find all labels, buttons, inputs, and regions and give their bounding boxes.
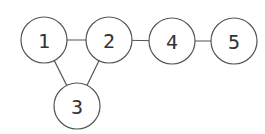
node-1: 1 [21, 17, 67, 63]
node-2-label: 2 [103, 29, 115, 53]
nodes: 1 2 3 4 5 [21, 17, 257, 129]
node-5-label: 5 [228, 30, 240, 54]
node-3-label: 3 [71, 95, 83, 119]
graph-diagram: 1 2 3 4 5 [0, 0, 265, 134]
node-5: 5 [211, 18, 257, 64]
node-2: 2 [86, 17, 132, 63]
node-4-label: 4 [166, 30, 178, 54]
node-3: 3 [54, 83, 100, 129]
node-1-label: 1 [38, 29, 50, 53]
node-4: 4 [149, 18, 195, 64]
